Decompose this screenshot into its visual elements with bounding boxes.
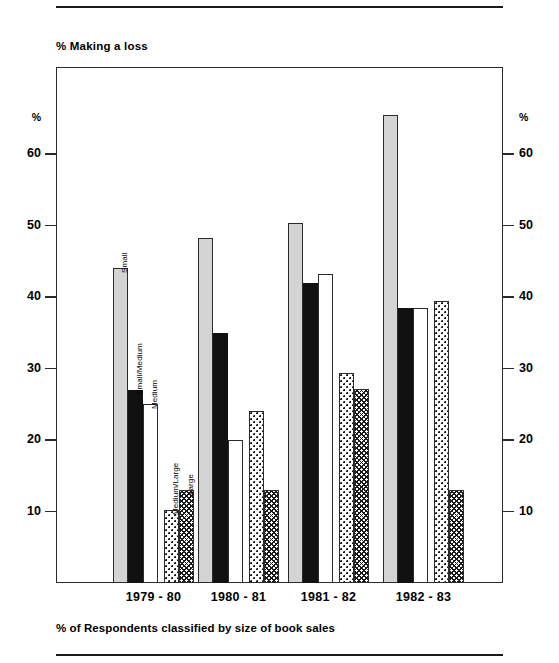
y-axis-tick-left-40	[45, 296, 56, 298]
y-axis-label-left-20: 20	[0, 433, 41, 446]
y-axis-label-right-30: 30	[519, 362, 559, 375]
bar-1979-80-large	[179, 490, 194, 583]
y-axis-label-left-10: 10	[0, 505, 41, 518]
series-annotation-small-medium: Small/Medium	[136, 343, 144, 395]
y-axis-tick-right-20	[503, 439, 514, 441]
y-axis-tick-right-50	[503, 225, 514, 227]
series-annotation-medium-large: Medium/Large	[172, 463, 180, 515]
bar-1982-83-medium	[413, 308, 428, 583]
y-axis-tick-left-20	[45, 439, 56, 441]
y-axis-label-left-50: 50	[0, 219, 41, 232]
y-axis-label-left-60: 60	[0, 147, 41, 160]
y-axis-label-left-40: 40	[0, 290, 41, 303]
page-rule-bottom	[56, 654, 503, 656]
y-axis-tick-right-40	[503, 296, 514, 298]
y-axis-tick-right-10	[503, 511, 514, 513]
bar-1981-82-medium-large	[339, 373, 354, 583]
y-axis-unit-right: %	[519, 112, 559, 123]
y-axis-tick-left-60	[45, 153, 56, 155]
bar-1979-80-small-medium	[128, 390, 143, 583]
series-annotation-large: Large	[187, 474, 195, 495]
bar-1982-83-large	[449, 490, 464, 583]
bar-1980-81-small	[198, 238, 213, 583]
y-axis-label-right-10: 10	[519, 505, 559, 518]
y-axis-label-right-20: 20	[519, 433, 559, 446]
y-axis-tick-left-50	[45, 225, 56, 227]
series-annotation-medium: Medium	[151, 380, 159, 409]
bar-1979-80-small	[113, 268, 128, 583]
bar-1979-80-medium	[143, 404, 158, 583]
y-axis-label-left-30: 30	[0, 362, 41, 375]
bar-1980-81-small-medium	[213, 333, 228, 583]
chart-footer-caption: % of Respondents classified by size of b…	[56, 622, 335, 634]
bar-1980-81-large	[264, 490, 279, 583]
y-axis-label-right-50: 50	[519, 219, 559, 232]
page-rule-top	[56, 6, 503, 8]
y-axis-label-right-40: 40	[519, 290, 559, 303]
bar-1980-81-medium	[228, 440, 243, 583]
bar-1981-82-large	[354, 389, 369, 583]
x-axis-label-1982-83: 1982 - 83	[361, 590, 486, 604]
bar-1980-81-medium-large	[249, 411, 264, 583]
chart-title: % Making a loss	[56, 40, 148, 52]
bar-1982-83-small	[383, 115, 398, 583]
y-axis-unit-left: %	[0, 112, 41, 123]
bar-1981-82-small	[288, 223, 303, 583]
series-annotation-small: Small	[121, 253, 129, 274]
y-axis-tick-left-10	[45, 511, 56, 513]
bar-1979-80-medium-large	[164, 510, 179, 583]
bar-1981-82-medium	[318, 274, 333, 583]
bar-1981-82-small-medium	[303, 283, 318, 583]
y-axis-tick-right-30	[503, 368, 514, 370]
y-axis-label-right-60: 60	[519, 147, 559, 160]
y-axis-tick-right-60	[503, 153, 514, 155]
y-axis-tick-left-30	[45, 368, 56, 370]
bar-1982-83-small-medium	[398, 308, 413, 583]
bar-1982-83-medium-large	[434, 301, 449, 583]
